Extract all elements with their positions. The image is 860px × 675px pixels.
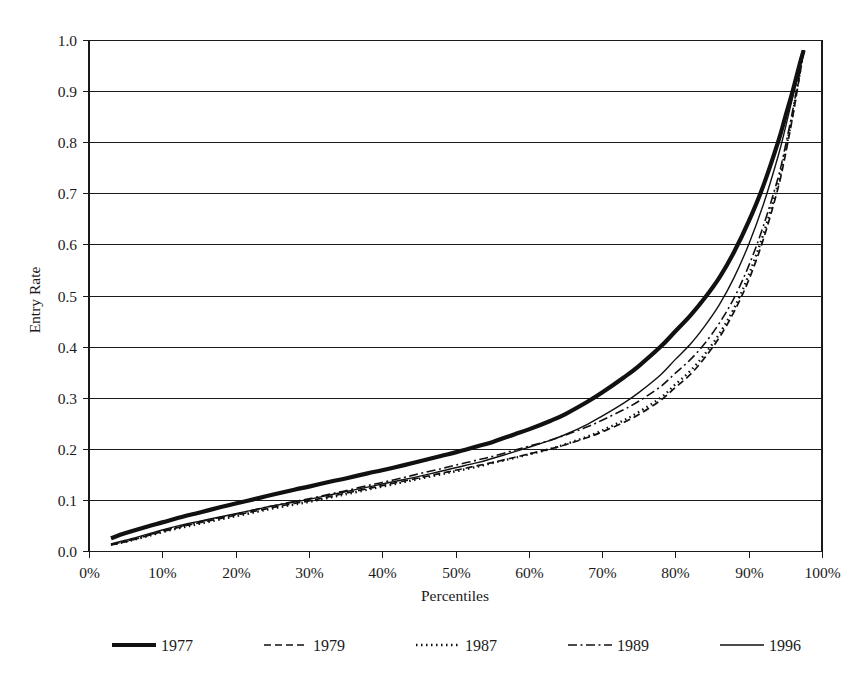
x-tick-label: 100% xyxy=(804,564,840,581)
y-tick-label: 0.9 xyxy=(58,83,78,100)
y-tick-label: 0.0 xyxy=(58,543,78,560)
x-tick-label: 60% xyxy=(515,564,544,581)
legend-label-1977: 1977 xyxy=(161,637,193,654)
y-tick-label: 1.0 xyxy=(58,32,78,49)
y-axis-title: Entry Rate xyxy=(26,267,43,334)
legend-label-1989: 1989 xyxy=(617,637,649,654)
y-tick-label: 0.5 xyxy=(58,288,78,305)
x-tick-label: 50% xyxy=(442,564,471,581)
y-tick-label: 0.3 xyxy=(58,390,78,407)
x-tick-label: 0% xyxy=(79,564,100,581)
legend-label-1996: 1996 xyxy=(769,637,801,654)
y-tick-label: 0.6 xyxy=(58,236,78,253)
x-tick-label: 70% xyxy=(588,564,617,581)
y-tick-label: 0.8 xyxy=(58,134,78,151)
chart-figure: 0.00.10.20.30.40.50.60.70.80.91.0 0%10%2… xyxy=(0,0,860,675)
legend-label-1987: 1987 xyxy=(465,637,497,654)
x-tick-label: 90% xyxy=(735,564,764,581)
x-tick-label: 80% xyxy=(661,564,690,581)
legend-label-1979: 1979 xyxy=(313,637,345,654)
x-tick-label: 40% xyxy=(368,564,397,581)
y-tick-label: 0.2 xyxy=(58,441,77,458)
chart-background xyxy=(0,0,860,675)
x-tick-label: 20% xyxy=(222,564,251,581)
y-tick-label: 0.4 xyxy=(58,339,78,356)
x-axis-title: Percentiles xyxy=(421,587,489,604)
x-tick-label: 30% xyxy=(295,564,324,581)
y-tick-label: 0.7 xyxy=(58,185,78,202)
entry-rate-percentile-line-chart: 0.00.10.20.30.40.50.60.70.80.91.0 0%10%2… xyxy=(0,0,860,675)
y-tick-label: 0.1 xyxy=(58,492,77,509)
x-tick-label: 10% xyxy=(148,564,177,581)
